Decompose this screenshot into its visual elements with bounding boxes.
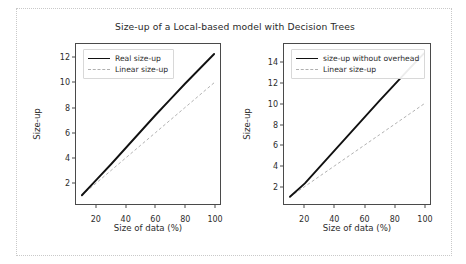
x-tick-mark <box>125 205 126 208</box>
y-tick-mark <box>280 145 283 146</box>
y-axis-label: Size-up <box>242 108 252 140</box>
x-tick-label: 80 <box>180 215 190 224</box>
legend-label: Linear size-up <box>323 64 376 75</box>
legend-item[interactable]: Linear size-up <box>88 64 168 75</box>
x-tick-label: 20 <box>91 215 101 224</box>
y-tick-mark <box>72 183 75 184</box>
x-tick-mark <box>334 205 335 208</box>
x-tick-mark <box>364 205 365 208</box>
x-tick-label: 80 <box>390 215 400 224</box>
legend-item[interactable]: Linear size-up <box>296 64 419 75</box>
y-tick-mark <box>280 124 283 125</box>
y-tick-mark <box>72 158 75 159</box>
legend-label: size-up without overhead <box>323 53 419 64</box>
y-tick-mark <box>72 132 75 133</box>
legend-left: Real size-up Linear size-up <box>83 49 174 79</box>
y-axis-label: Size-up <box>32 108 42 140</box>
x-axis-label: Size of data (%) <box>283 223 431 233</box>
x-tick-label: 100 <box>417 215 432 224</box>
x-axis-label: Size of data (%) <box>75 223 221 233</box>
y-tick-mark <box>72 107 75 108</box>
x-tick-label: 60 <box>150 215 160 224</box>
legend-label: Linear size-up <box>115 64 168 75</box>
x-tick-label: 60 <box>359 215 369 224</box>
x-tick-label: 40 <box>121 215 131 224</box>
y-tick-mark <box>72 82 75 83</box>
y-tick-mark <box>280 103 283 104</box>
x-tick-mark <box>394 205 395 208</box>
legend-item[interactable]: size-up without overhead <box>296 53 419 64</box>
series-line-linear-right <box>290 104 424 197</box>
figure-container: Size-up of a Local-based model with Deci… <box>16 8 452 256</box>
legend-item[interactable]: Real size-up <box>88 53 168 64</box>
x-tick-mark <box>215 205 216 208</box>
legend-solid-line-icon <box>88 58 110 59</box>
y-tick-mark <box>280 166 283 167</box>
y-tick-mark <box>72 56 75 57</box>
y-tick-mark <box>280 187 283 188</box>
chart-panel-right: Size-up Size of data (%) size-up without… <box>239 39 445 247</box>
series-line-linear-left <box>82 83 214 196</box>
chart-panel-left: Size-up Size of data (%) Real size-up Li… <box>27 39 235 247</box>
x-tick-mark <box>155 205 156 208</box>
x-tick-label: 40 <box>329 215 339 224</box>
plot-area-left: Real size-up Linear size-up <box>75 43 221 205</box>
legend-dashed-line-icon <box>88 69 110 70</box>
x-tick-mark <box>95 205 96 208</box>
y-tick-mark <box>280 82 283 83</box>
legend-right: size-up without overhead Linear size-up <box>291 49 425 79</box>
legend-dashed-line-icon <box>296 69 318 70</box>
x-tick-label: 20 <box>299 215 309 224</box>
x-tick-mark <box>424 205 425 208</box>
figure-title: Size-up of a Local-based model with Deci… <box>17 21 453 32</box>
x-tick-mark <box>185 205 186 208</box>
plot-area-right: size-up without overhead Linear size-up <box>283 43 431 205</box>
legend-solid-line-icon <box>296 58 318 59</box>
x-tick-mark <box>304 205 305 208</box>
x-tick-label: 100 <box>207 215 222 224</box>
legend-label: Real size-up <box>115 53 161 64</box>
y-tick-mark <box>280 61 283 62</box>
